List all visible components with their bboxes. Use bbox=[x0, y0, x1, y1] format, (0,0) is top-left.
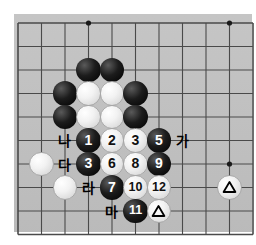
black-stone bbox=[53, 81, 78, 106]
move-number: 1 bbox=[85, 133, 93, 147]
move-number: 6 bbox=[108, 156, 116, 170]
white-stone bbox=[76, 81, 101, 106]
black-stone-move-5: 5 bbox=[147, 128, 172, 153]
star-point bbox=[227, 20, 232, 25]
move-number: 2 bbox=[108, 133, 116, 147]
white-stone bbox=[53, 175, 78, 200]
move-number: 5 bbox=[155, 133, 163, 147]
move-number: 9 bbox=[155, 156, 163, 170]
move-number: 7 bbox=[108, 180, 116, 194]
star-point bbox=[86, 20, 91, 25]
triangle-marker-icon bbox=[222, 180, 237, 194]
move-number: 12 bbox=[152, 181, 166, 194]
black-stone-move-7: 7 bbox=[100, 175, 125, 200]
move-number: 8 bbox=[132, 156, 140, 170]
move-number: 11 bbox=[129, 204, 142, 217]
black-stone bbox=[76, 58, 101, 83]
black-stone-move-3: 3 bbox=[76, 152, 101, 177]
point-label-가: 가 bbox=[170, 128, 195, 153]
point-label-마: 마 bbox=[100, 199, 125, 224]
white-stone-move-8: 8 bbox=[123, 152, 148, 177]
white-stone bbox=[29, 152, 54, 177]
white-stone-move-3: 3 bbox=[123, 128, 148, 153]
star-point bbox=[227, 161, 232, 166]
black-stone-move-11: 11 bbox=[123, 199, 148, 224]
point-label-나: 나 bbox=[53, 128, 78, 153]
move-number: 10 bbox=[129, 181, 143, 194]
black-stone bbox=[123, 81, 148, 106]
white-stone bbox=[76, 105, 101, 130]
white-stone-triangle-marked bbox=[217, 175, 242, 200]
black-stone-move-1: 1 bbox=[76, 128, 101, 153]
white-stone-move-2: 2 bbox=[100, 128, 125, 153]
move-number: 3 bbox=[132, 133, 140, 147]
point-label-다: 다 bbox=[53, 152, 78, 177]
white-stone bbox=[100, 81, 125, 106]
black-stone bbox=[123, 105, 148, 130]
triangle-marker-icon bbox=[151, 204, 166, 218]
white-stone-move-12: 12 bbox=[147, 175, 172, 200]
move-number: 3 bbox=[85, 156, 93, 170]
go-diagram-root: 123536897101211 나가다라마 bbox=[0, 0, 256, 245]
white-stone-move-10: 10 bbox=[123, 175, 148, 200]
point-label-라: 라 bbox=[76, 175, 101, 200]
